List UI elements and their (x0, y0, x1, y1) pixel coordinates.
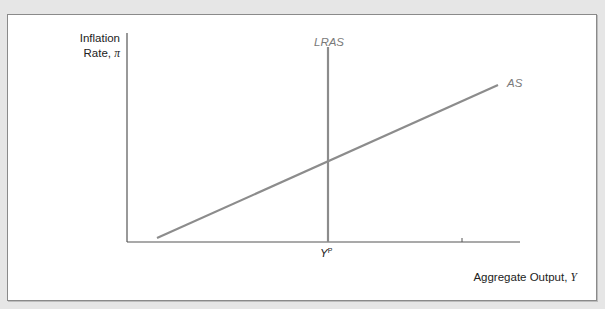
y-axis-label-line1: Inflation (80, 31, 120, 46)
x-axis-label: Aggregate Output, Y (473, 271, 577, 283)
pi-symbol: π (114, 47, 120, 59)
y-symbol: Y (571, 271, 577, 283)
y-axis-label: Inflation Rate, π (80, 31, 120, 61)
as-label: AS (507, 77, 522, 89)
lras-label: LRAS (314, 36, 344, 48)
y-axis-label-line2: Rate, π (80, 46, 120, 61)
potential-output-tick-label: YP (320, 247, 332, 259)
